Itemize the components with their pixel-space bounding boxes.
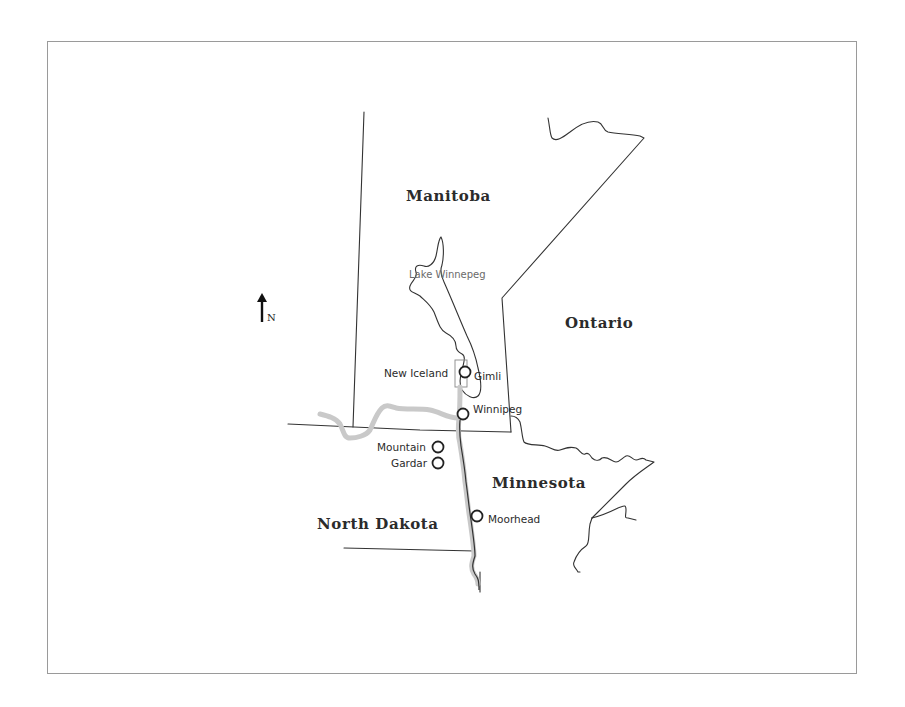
city-label-moorhead: Moorhead: [488, 513, 540, 525]
city-label-gimli: Gimli: [474, 370, 501, 382]
region-label-north-dakota: North Dakota: [317, 515, 439, 533]
north-arrow-icon: [257, 293, 267, 322]
border-saskatchewan-manitoba: [353, 112, 364, 427]
city-label-gardar: Gardar: [391, 457, 428, 469]
city-label-mountain: Mountain: [377, 441, 426, 453]
border-canada-us: [288, 424, 511, 432]
border-minnesota-ontario: [511, 416, 654, 518]
border-manitoba-ontario: [502, 118, 644, 432]
region-label-minnesota: Minnesota: [492, 474, 586, 492]
city-label-winnipeg: Winnipeg: [473, 403, 522, 415]
area-label-new-iceland: New Iceland: [384, 367, 448, 379]
border-north-south-dakota: [344, 548, 475, 551]
city-marker-moorhead[interactable]: [472, 511, 483, 522]
map-canvas: Manitoba Ontario Minnesota North Dakota …: [0, 0, 905, 707]
city-marker-mountain[interactable]: [433, 442, 444, 453]
region-label-ontario: Ontario: [565, 314, 633, 332]
region-label-manitoba: Manitoba: [406, 187, 491, 205]
north-label: N: [267, 312, 276, 323]
lake-label-winnipeg: Lake Winnepeg: [409, 269, 486, 280]
migration-route: [320, 406, 458, 438]
border-minnesota-wisconsin: [573, 518, 592, 572]
city-marker-winnipeg[interactable]: [458, 409, 469, 420]
city-marker-gimli[interactable]: [460, 367, 471, 378]
shore-lake-superior: [592, 506, 636, 520]
city-marker-gardar[interactable]: [433, 458, 444, 469]
